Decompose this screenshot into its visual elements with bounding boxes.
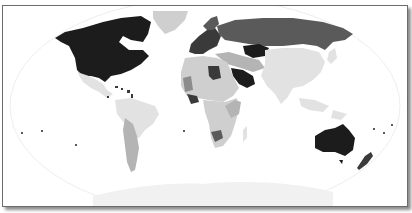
region-tasmania [339,160,343,164]
region-south-america-north [115,98,159,138]
region-caribbean [107,86,133,98]
region-russia [217,18,353,50]
world-map [3,6,407,206]
map-title-clipped [100,0,260,4]
region-japan [327,48,337,64]
region-australia [315,124,355,156]
region-north-america [55,16,151,82]
region-china-south-asia [261,48,325,104]
region-europe [189,28,221,54]
region-southeast-asia [299,98,347,120]
region-antarctica [93,182,333,206]
map-frame [2,5,408,207]
region-scandinavia [203,16,219,30]
region-madagascar [243,126,247,142]
region-greenland [153,11,188,34]
